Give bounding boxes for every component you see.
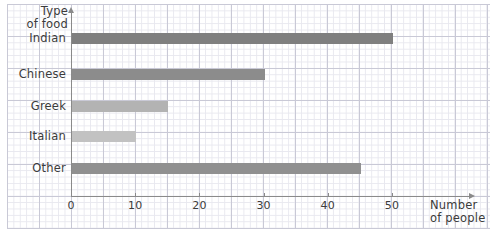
- x-tick-label-20: 20: [184, 199, 214, 212]
- category-label-indian: Indian: [4, 31, 66, 45]
- category-label-other: Other: [4, 161, 66, 175]
- x-tick-label-10: 10: [120, 199, 150, 212]
- page-margin-left: [0, 0, 7, 247]
- page-margin-top: [0, 0, 503, 4]
- bar-chinese: [72, 69, 265, 80]
- bar-chart: Type of food Number of people 0102030405…: [0, 0, 503, 247]
- x-tick-20: [199, 193, 200, 197]
- x-tick-label-30: 30: [249, 199, 279, 212]
- x-tick-10: [135, 193, 136, 197]
- bar-italian: [72, 131, 136, 142]
- x-tick-30: [264, 193, 265, 197]
- x-axis-line: [71, 196, 471, 197]
- x-tick-label-0: 0: [56, 199, 86, 212]
- page-margin-right: [490, 0, 503, 247]
- y-axis-arrow-icon: [68, 7, 74, 13]
- x-tick-label-50: 50: [377, 199, 407, 212]
- category-label-chinese: Chinese: [4, 67, 66, 81]
- x-tick-label-40: 40: [313, 199, 343, 212]
- y-axis-title-line-1: Type: [4, 5, 68, 18]
- category-label-italian: Italian: [4, 129, 66, 143]
- page-margin-bottom: [0, 229, 503, 247]
- x-tick-50: [392, 193, 393, 197]
- bar-greek: [72, 101, 168, 112]
- bar-indian: [72, 33, 393, 44]
- category-label-greek: Greek: [4, 99, 66, 113]
- x-tick-0: [71, 193, 72, 197]
- bar-other: [72, 163, 361, 174]
- x-tick-40: [328, 193, 329, 197]
- y-axis-title-line-2: of food: [4, 18, 68, 31]
- y-axis-title: Type of food: [4, 5, 68, 30]
